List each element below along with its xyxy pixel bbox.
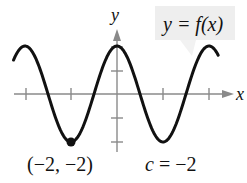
function-graph: y = f(x) x y (−2, −2) c	[0, 0, 247, 183]
minimum-point	[67, 138, 76, 147]
y-axis-label: y	[109, 5, 119, 25]
c-value: = −2	[154, 153, 197, 175]
y-axis-arrow-icon	[113, 29, 121, 41]
c-value-label: c = −2	[145, 153, 196, 175]
label-pointer	[180, 40, 196, 56]
x-axis-label: x	[235, 84, 244, 104]
y-axis: y	[109, 5, 123, 152]
c-variable: c	[145, 153, 154, 175]
function-label-callout: y = f(x)	[155, 6, 235, 56]
point-label: (−2, −2)	[27, 153, 93, 176]
x-axis-arrow-icon	[222, 90, 234, 98]
function-label: y = f(x)	[161, 13, 223, 36]
